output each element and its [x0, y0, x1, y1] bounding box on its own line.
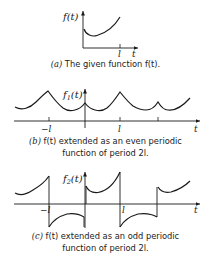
panel-c-graph: f2(t) −l l t	[14, 172, 200, 228]
y-axis-label: f(t)	[62, 11, 79, 22]
tick-label-neg-l: −l	[41, 124, 52, 134]
y-axis-label: f2(t)	[62, 173, 83, 186]
tick-label-l: l	[118, 124, 121, 134]
caption-c-line1: (c) f(t) extended as an odd periodic	[0, 230, 211, 242]
tick-label-l: l	[122, 205, 125, 215]
caption-text: f(t) extended as an odd periodic	[46, 231, 180, 241]
caption-b-line2: function of period 2l.	[0, 147, 211, 159]
panel-b-graph: f1(t) −l l t	[14, 89, 200, 134]
even-extension-curve	[15, 91, 190, 111]
function-curve	[84, 17, 120, 36]
curve-segment	[15, 176, 49, 194]
caption-tag: (a)	[51, 59, 62, 69]
caption-tag: (b)	[29, 136, 41, 146]
figure-canvas: f(t) l t f1(t) −l l t f2(t) −l	[0, 0, 211, 261]
panel-a-graph: f(t) l t	[62, 11, 138, 59]
tick-label-neg-l: −l	[40, 205, 51, 215]
curve-segment	[49, 214, 84, 227]
x-axis-label: t	[194, 124, 198, 134]
curve-segment	[120, 214, 157, 227]
caption-text: The given function f(t).	[65, 59, 160, 69]
caption-b-line1: (b) f(t) extended as an even periodic	[0, 135, 211, 147]
caption-a: (a) The given function f(t).	[0, 58, 211, 70]
y-axis-label: f1(t)	[62, 89, 83, 102]
x-axis-label: t	[194, 205, 198, 215]
curve-segment	[86, 172, 120, 193]
caption-tag: (c)	[32, 231, 43, 241]
curve-segment	[158, 181, 190, 192]
caption-c-line2: function of period 2l.	[0, 242, 211, 254]
caption-text: f(t) extended as an even periodic	[44, 136, 182, 146]
